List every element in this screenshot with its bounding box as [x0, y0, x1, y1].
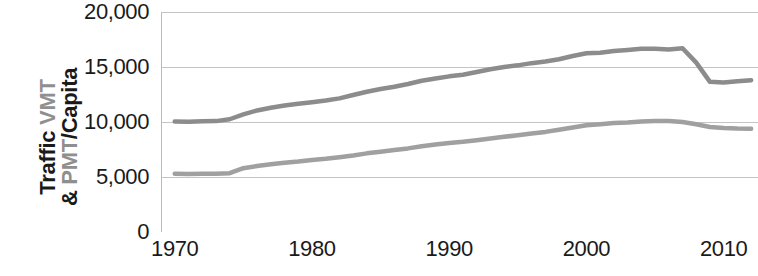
x-axis-tick-label: 1980	[267, 236, 357, 262]
y-axis-tick-label: 10,000	[45, 109, 149, 135]
y-axis-tick-label: 20,000	[45, 0, 149, 25]
series-line-pmt	[175, 121, 751, 174]
x-axis-tick-label: 1970	[130, 236, 220, 262]
x-axis-tick-labels: 19701980199020002010	[0, 236, 758, 276]
plot-area	[161, 12, 758, 232]
series-line-vmt	[175, 48, 751, 121]
y-axis-tick-label: 15,000	[45, 54, 149, 80]
y-axis-tick-labels: 05,00010,00015,00020,000	[45, 0, 149, 276]
chart-figure: Traffic VMT & PMT/Capita 05,00010,00015,…	[0, 0, 758, 276]
y-axis-tick-label: 5,000	[45, 164, 149, 190]
plot-canvas	[161, 12, 758, 232]
x-axis-tick-label: 1990	[404, 236, 494, 262]
x-axis-tick-label: 2010	[679, 236, 758, 262]
x-axis-tick-label: 2000	[541, 236, 631, 262]
